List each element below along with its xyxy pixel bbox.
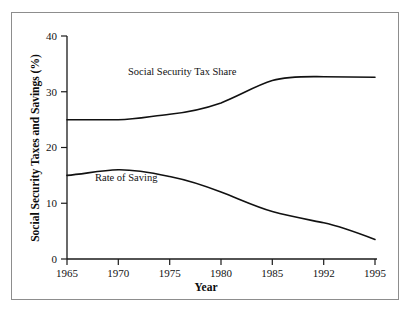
series-label-social-security-tax-share: Social Security Tax Share xyxy=(128,66,236,77)
x-tick-label-1980: 1980 xyxy=(199,267,243,279)
x-tick-label-1992: 1992 xyxy=(302,267,346,279)
y-axis-ticks xyxy=(61,36,67,259)
x-axis-title: Year xyxy=(0,281,412,293)
x-axis-ticks xyxy=(67,259,375,265)
x-tick-label-1995: 1995 xyxy=(353,267,397,279)
x-tick-label-1985: 1985 xyxy=(250,267,294,279)
chart-figure: 40 30 20 10 0 1965 1970 1975 1980 1985 1… xyxy=(0,0,412,318)
series-line-social-security-tax-share xyxy=(67,77,375,120)
series-label-rate-of-saving: Rate of Saving xyxy=(95,172,157,183)
x-tick-label-1970: 1970 xyxy=(96,267,140,279)
y-axis-title: Social Security Taxes and Savings (%) xyxy=(29,36,41,260)
x-tick-label-1975: 1975 xyxy=(148,267,192,279)
x-tick-label-1965: 1965 xyxy=(45,267,89,279)
